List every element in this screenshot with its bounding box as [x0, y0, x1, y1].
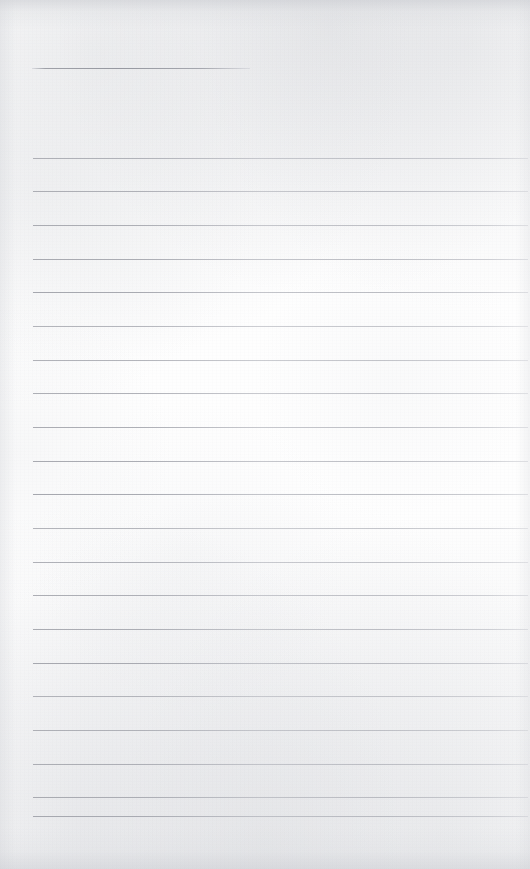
ruled-line — [33, 730, 528, 731]
scan-shadow-left — [0, 0, 16, 869]
scan-shadow-right — [516, 0, 530, 869]
ruled-line — [33, 225, 528, 226]
ruled-line — [33, 360, 528, 361]
ruled-line — [33, 393, 528, 394]
paper-grain-texture — [0, 0, 530, 869]
ruled-line — [33, 797, 528, 798]
ruled-line — [33, 292, 528, 293]
ruled-line — [33, 816, 528, 817]
scanned-page — [0, 0, 530, 869]
ruled-line — [33, 326, 528, 327]
scan-shadow-bottom — [0, 827, 530, 869]
ruled-line — [33, 494, 528, 495]
ruled-line — [33, 158, 528, 159]
ruled-line — [33, 562, 528, 563]
ruled-line — [33, 595, 528, 596]
ruled-line — [33, 427, 528, 428]
ruled-line — [33, 528, 528, 529]
ruled-line — [33, 663, 528, 664]
ruled-line — [33, 259, 528, 260]
ruled-line — [33, 629, 528, 630]
ruled-line — [33, 191, 528, 192]
header-rule — [32, 68, 250, 69]
ruled-line — [33, 461, 528, 462]
scan-shadow-top — [0, 0, 530, 30]
ruled-line — [33, 764, 528, 765]
ruled-line — [33, 696, 528, 697]
